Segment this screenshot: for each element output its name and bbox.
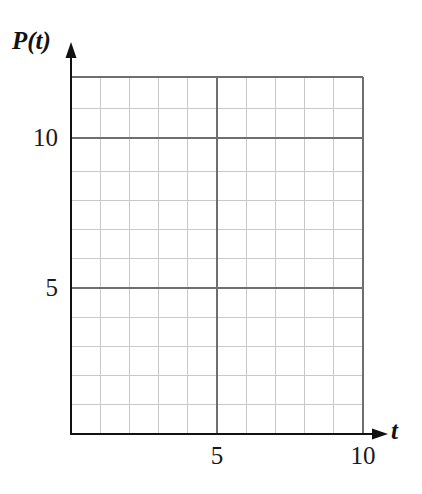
coordinate-plane[interactable] <box>0 0 422 494</box>
x-tick-label-5: 5 <box>189 443 245 468</box>
x-tick-label-10: 10 <box>335 443 391 468</box>
y-tick-label-5: 5 <box>2 275 58 300</box>
arrow-right-icon <box>372 429 388 440</box>
graph-figure: P(t) t 10 5 5 10 <box>0 0 422 494</box>
y-axis-label: P(t) <box>12 28 51 53</box>
arrow-up-icon <box>66 42 77 58</box>
y-tick-label-10: 10 <box>2 125 58 150</box>
x-axis-label: t <box>391 418 398 443</box>
